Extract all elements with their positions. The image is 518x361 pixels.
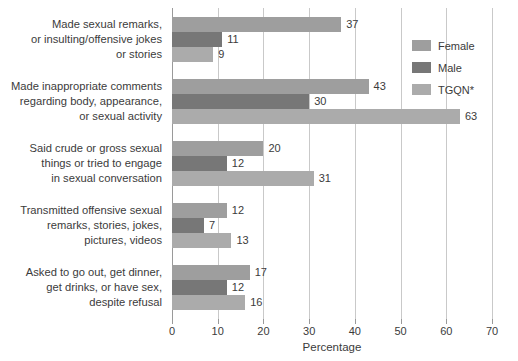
category-label-line: get drinks, or have sex, <box>0 280 162 295</box>
category-label: Said crude or gross sexualthings or trie… <box>0 141 162 186</box>
category-label-line: Said crude or gross sexual <box>0 141 162 156</box>
x-tick-label: 0 <box>169 325 175 337</box>
category-label-line: Transmitted offensive sexual <box>0 203 162 218</box>
x-tick-30 <box>309 319 310 324</box>
bar-row: 7 <box>172 218 492 233</box>
bar-row: 63 <box>172 109 492 124</box>
bar-value-label: 31 <box>314 171 331 186</box>
category-label-line: or sexual activity <box>0 109 162 124</box>
bar-value-label: 13 <box>231 233 248 248</box>
bar-group: 171216 <box>172 265 492 310</box>
bar-value-label: 63 <box>460 109 477 124</box>
bar-tgqn-3 <box>172 233 231 248</box>
x-tick-label: 20 <box>257 325 269 337</box>
bar-row: 37 <box>172 17 492 32</box>
bar-row: 13 <box>172 233 492 248</box>
bar-value-label: 11 <box>222 32 238 47</box>
legend-item-tgqn[interactable]: TGQN* <box>412 82 475 97</box>
legend-item-female[interactable]: Female <box>412 38 475 53</box>
bar-value-label: 12 <box>227 280 244 295</box>
gridline-70 <box>492 8 493 319</box>
bar-row: 12 <box>172 156 492 171</box>
legend-swatch-icon <box>412 84 431 95</box>
x-tick-label: 40 <box>349 325 361 337</box>
category-label-line: or insulting/offensive jokes <box>0 32 162 47</box>
bar-male-1 <box>172 94 309 109</box>
grouped-bar-chart: Made sexual remarks,or insulting/offensi… <box>0 0 518 361</box>
category-label: Made inappropriate commentsregarding bod… <box>0 79 162 124</box>
bar-male-0 <box>172 32 222 47</box>
bar-value-label: 12 <box>227 203 244 218</box>
bar-value-label: 7 <box>204 218 215 233</box>
category-label: Made sexual remarks,or insulting/offensi… <box>0 17 162 62</box>
bar-male-2 <box>172 156 227 171</box>
category-label-line: Asked to go out, get dinner, <box>0 265 162 280</box>
bar-row: 12 <box>172 203 492 218</box>
category-label-line: regarding body, appearance, <box>0 94 162 109</box>
bar-row: 20 <box>172 141 492 156</box>
x-tick-label: 30 <box>303 325 315 337</box>
x-tick-label: 10 <box>212 325 224 337</box>
bar-value-label: 12 <box>227 156 244 171</box>
category-label-line: things or tried to engage <box>0 156 162 171</box>
bar-row: 12 <box>172 280 492 295</box>
bar-tgqn-0 <box>172 47 213 62</box>
bar-row: 31 <box>172 171 492 186</box>
bar-value-label: 9 <box>213 47 224 62</box>
legend-label: Female <box>438 40 475 52</box>
bar-tgqn-2 <box>172 171 314 186</box>
bar-female-1 <box>172 79 369 94</box>
legend-item-male[interactable]: Male <box>412 60 475 75</box>
legend-label: Male <box>438 62 462 74</box>
bar-female-2 <box>172 141 263 156</box>
bar-female-4 <box>172 265 250 280</box>
x-tick-40 <box>355 319 356 324</box>
category-label-line: remarks, stories, jokes, <box>0 218 162 233</box>
category-label-list: Made sexual remarks,or insulting/offensi… <box>0 8 168 319</box>
category-label-line: Made sexual remarks, <box>0 17 162 32</box>
legend: FemaleMaleTGQN* <box>412 38 475 104</box>
legend-label: TGQN* <box>438 84 474 96</box>
x-tick-70 <box>492 319 493 324</box>
category-label-line: or stories <box>0 47 162 62</box>
x-axis-title: Percentage <box>172 341 492 353</box>
category-label-line: Made inappropriate comments <box>0 79 162 94</box>
bar-value-label: 16 <box>245 295 262 310</box>
bar-female-0 <box>172 17 341 32</box>
bar-value-label: 20 <box>263 141 280 156</box>
x-axis: 010203040506070 <box>172 319 492 333</box>
bar-group: 12713 <box>172 203 492 248</box>
category-label: Transmitted offensive sexualremarks, sto… <box>0 203 162 248</box>
bar-value-label: 17 <box>250 265 267 280</box>
category-label-line: in sexual conversation <box>0 171 162 186</box>
category-label: Asked to go out, get dinner,get drinks, … <box>0 265 162 310</box>
bar-value-label: 43 <box>369 79 386 94</box>
x-tick-10 <box>218 319 219 324</box>
bar-value-label: 37 <box>341 17 358 32</box>
bar-row: 16 <box>172 295 492 310</box>
x-tick-20 <box>263 319 264 324</box>
bar-female-3 <box>172 203 227 218</box>
bar-group: 201231 <box>172 141 492 186</box>
x-tick-60 <box>446 319 447 324</box>
legend-swatch-icon <box>412 62 431 73</box>
category-label-line: pictures, videos <box>0 233 162 248</box>
bar-row: 17 <box>172 265 492 280</box>
bar-tgqn-1 <box>172 109 460 124</box>
bar-male-4 <box>172 280 227 295</box>
category-label-line: despite refusal <box>0 295 162 310</box>
legend-swatch-icon <box>412 40 431 51</box>
x-tick-50 <box>401 319 402 324</box>
x-tick-label: 50 <box>394 325 406 337</box>
x-tick-label: 70 <box>486 325 498 337</box>
x-tick-0 <box>172 319 173 324</box>
bar-male-3 <box>172 218 204 233</box>
bar-value-label: 30 <box>309 94 326 109</box>
bar-tgqn-4 <box>172 295 245 310</box>
x-tick-label: 60 <box>440 325 452 337</box>
